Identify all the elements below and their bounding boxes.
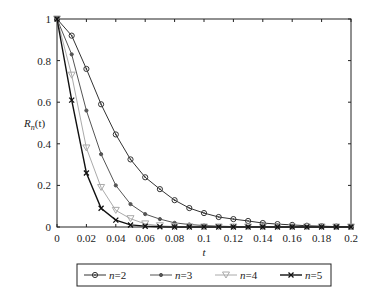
series-line [57,19,351,227]
legend-marker-center [94,274,96,276]
data-point-center [218,216,220,218]
x-tick-label: 0.08 [165,232,185,244]
x-tick-label: 0.18 [312,232,332,244]
data-point [114,184,117,187]
data-point [100,153,103,156]
data-point [158,217,161,220]
data-point-center [159,188,161,190]
plot-frame [57,19,351,227]
legend-label: n=5 [305,269,323,281]
y-tick-label: 1 [46,13,52,25]
y-tick-label: 0 [46,221,52,233]
data-point-center [130,159,132,161]
x-tick-label: 0.16 [283,232,303,244]
data-point-center [233,218,235,220]
legend-marker [159,273,162,276]
data-point [70,53,73,56]
legend-label: n=3 [175,269,193,281]
axes: 00.020.040.060.080.10.120.140.160.180.20… [37,13,358,244]
data-point-center [189,207,191,209]
series-line [57,19,351,227]
series-layer [54,16,355,230]
y-axis-label-suffix: (t) [35,117,46,130]
y-tick-label: 0.8 [37,55,51,67]
data-point-center [247,220,249,222]
series-line [57,19,351,227]
data-point-center [203,212,205,214]
series-line [57,19,351,227]
x-tick-label: 0.12 [224,232,243,244]
y-tick-label: 0.2 [37,179,51,191]
data-point [129,203,132,206]
data-point-center [100,103,102,105]
x-tick-label: 0.02 [77,232,96,244]
reliability-chart: 00.020.040.060.080.10.120.140.160.180.20… [0,0,373,301]
x-tick-label: 0.1 [197,232,211,244]
series-n4 [54,16,355,230]
series-n3 [55,17,352,228]
series-n5 [55,17,354,230]
x-tick-label: 0.14 [253,232,273,244]
y-tick-label: 0.6 [37,96,51,108]
legend-label: n=2 [109,269,126,281]
legend: n=2n=3n=4n=5 [77,264,331,286]
x-tick-label: 0.04 [106,232,126,244]
y-axis-label: Rn(t) [23,117,45,132]
data-point-center [86,68,88,70]
data-point-center [174,199,176,201]
x-tick-label: 0 [54,232,60,244]
y-tick-label: 0.4 [37,138,51,150]
data-point-center [144,176,146,178]
data-point [144,213,147,216]
x-tick-label: 0.2 [344,232,358,244]
series-n2 [54,16,353,229]
data-point [85,109,88,112]
x-tick-label: 0.06 [136,232,156,244]
x-axis-label: t [202,246,206,258]
data-point-center [71,35,73,37]
legend-label: n=4 [240,269,258,281]
data-point-center [115,134,117,136]
